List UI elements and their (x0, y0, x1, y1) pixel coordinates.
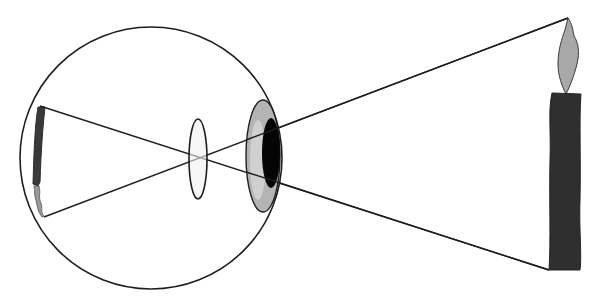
ray-from-candle-base-front (246, 172, 549, 270)
diagram-canvas (0, 0, 602, 298)
eyeball-outline (20, 27, 282, 289)
candle-flame (558, 18, 578, 94)
lens (189, 119, 207, 199)
retina-flame (34, 186, 44, 217)
candle-object (549, 18, 581, 270)
retina-inverted-image (33, 107, 45, 217)
retina-candle-body (33, 107, 45, 186)
ray-from-flame-tip-front (246, 18, 568, 140)
candle-body (549, 93, 581, 270)
eye-image-formation-diagram (0, 0, 602, 298)
